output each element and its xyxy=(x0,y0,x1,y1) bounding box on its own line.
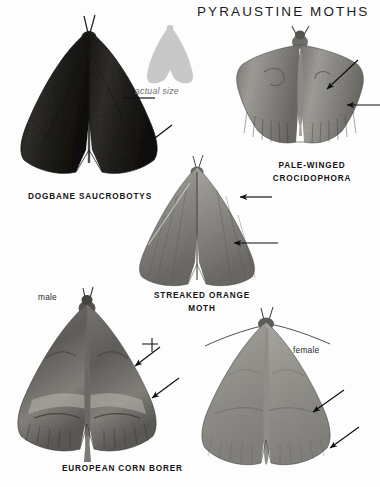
page-title: PYRAUSTINE MOTHS xyxy=(197,4,369,19)
pointer-pale-winged-1 xyxy=(327,60,358,89)
caption-streaked-orange-line1: STREAKED ORANGE xyxy=(148,290,256,303)
figure-pale-winged-crocidophora xyxy=(237,26,364,143)
pointer-male-tick xyxy=(142,338,158,352)
plate-page: PYRAUSTINE MOTHS xyxy=(0,0,380,487)
caption-pale-winged-line2: CROCIDOPHORA xyxy=(262,173,362,186)
actual-size-label: actual size xyxy=(135,86,179,96)
caption-pale-winged-line1: PALE-WINGED xyxy=(266,160,358,173)
figure-european-corn-borer-male xyxy=(18,287,156,462)
caption-european-corn-borer: EUROPEAN CORN BORER xyxy=(62,463,183,476)
pointer-lines xyxy=(124,60,380,448)
label-female: female xyxy=(293,345,319,355)
figure-european-corn-borer-female xyxy=(202,307,330,465)
pointer-dogbane-2 xyxy=(142,125,172,148)
moth-silhouette-icon xyxy=(147,25,193,83)
caption-streaked-orange-line2: MOTH xyxy=(148,303,256,316)
pointer-male-2 xyxy=(152,378,179,398)
figure-streaked-orange-moth xyxy=(140,155,255,286)
pointer-male-1 xyxy=(135,347,160,366)
illustration-canvas xyxy=(0,0,380,487)
pointer-female-1 xyxy=(313,390,344,412)
caption-dogbane-saucrobotys: DOGBANE SAUCROBOTYS xyxy=(28,191,152,204)
pointer-female-2 xyxy=(330,427,359,448)
label-male: male xyxy=(38,292,57,302)
